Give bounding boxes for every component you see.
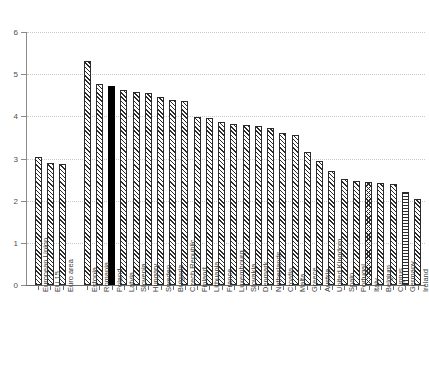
x-axis-tick <box>209 286 210 290</box>
bar-hungary[interactable] <box>145 93 152 285</box>
x-axis-tick <box>418 286 419 290</box>
x-axis-tick <box>393 286 394 290</box>
y-axis-tick-label: 4 <box>2 112 18 121</box>
y-axis-tick-label: 1 <box>2 238 18 247</box>
x-axis-tick <box>332 286 333 290</box>
x-axis-label-greece: Greece <box>310 267 319 292</box>
x-axis-label-estonia: Estonia <box>90 267 99 292</box>
x-axis-tick <box>148 286 149 290</box>
y-axis-tick-label: 2 <box>2 196 18 205</box>
x-axis-label-eu-15: EU 15 <box>53 271 62 292</box>
x-axis-tick <box>63 286 64 290</box>
x-axis-tick <box>283 286 284 290</box>
x-axis-tick <box>136 286 137 290</box>
bar-poland[interactable] <box>108 86 115 285</box>
bar-romania[interactable] <box>96 84 103 285</box>
x-axis-label-luxembourg: Luxembourg <box>237 250 246 292</box>
x-axis-label-latvia: Latvia <box>127 272 136 292</box>
y-axis-tick-label: 6 <box>2 28 18 37</box>
x-axis-label-portugal: Portugal <box>359 264 368 292</box>
bar-chart: 0123456 European UnionEU 15Euro areaEsto… <box>0 0 429 367</box>
x-axis-tick <box>369 286 370 290</box>
bar-malta[interactable] <box>292 135 299 285</box>
x-axis-label-european-union: European Union <box>41 238 50 292</box>
y-axis-tick-label: 5 <box>2 70 18 79</box>
x-axis-label-united-kingdom: United Kingdom <box>335 239 344 292</box>
x-axis-tick <box>295 286 296 290</box>
x-axis-label-lithuania: Lithuania <box>212 262 221 292</box>
x-axis-tick <box>258 286 259 290</box>
x-axis-tick <box>50 286 51 290</box>
x-axis-label-finland: Finland <box>200 267 209 292</box>
x-axis-label-netherlands: Netherlands <box>274 252 283 292</box>
x-axis-label-euro-area: Euro area <box>66 259 75 292</box>
x-axis-tick <box>161 286 162 290</box>
x-axis-label-denmark: Denmark <box>261 262 270 292</box>
x-axis-label-ireland: Ireland <box>421 269 429 292</box>
y-axis-tick <box>21 285 26 286</box>
x-axis-label-hungary: Hungary <box>151 264 160 292</box>
x-axis-tick <box>234 286 235 290</box>
x-axis-label-slovakia: Slovakia <box>249 264 258 292</box>
plot-area <box>26 32 425 285</box>
bar-sweden[interactable] <box>157 97 164 285</box>
x-axis-tick <box>185 286 186 290</box>
x-axis-tick <box>197 286 198 290</box>
x-axis-label-poland: Poland <box>115 269 124 292</box>
bar-estonia[interactable] <box>84 61 91 285</box>
x-axis-label-belgium: Belgium <box>384 265 393 292</box>
x-axis-tick <box>356 286 357 290</box>
x-axis-tick <box>99 286 100 290</box>
x-axis-label-slovenia: Slovenia <box>139 263 148 292</box>
x-axis-tick <box>405 286 406 290</box>
bar-greece[interactable] <box>304 152 311 285</box>
x-axis-label-sweden: Sweden <box>164 265 173 292</box>
bar-slovenia[interactable] <box>133 92 140 285</box>
y-axis-tick-label: 0 <box>2 281 18 290</box>
x-axis-tick <box>87 286 88 290</box>
x-axis-label-malta: Malta <box>298 274 307 292</box>
x-axis-tick <box>320 286 321 290</box>
x-axis-label-italy: Italy <box>372 278 381 292</box>
x-axis-label-romania: Romania <box>102 262 111 292</box>
x-axis-label-spain: Spain <box>347 273 356 292</box>
bar-latvia[interactable] <box>120 90 127 285</box>
x-axis-tick <box>307 286 308 290</box>
x-axis-tick <box>112 286 113 290</box>
x-axis-tick <box>222 286 223 290</box>
bar-bulgaria[interactable] <box>169 100 176 285</box>
x-axis-label-austria: Austria <box>323 269 332 292</box>
x-axis-label-bulgaria: Bulgaria <box>176 264 185 292</box>
y-axis-tick-label: 3 <box>2 154 18 163</box>
x-axis-tick <box>271 286 272 290</box>
x-axis-tick <box>344 286 345 290</box>
x-axis-tick <box>246 286 247 290</box>
x-axis-label-czech-republic: Czech Republic <box>188 239 197 292</box>
bar-lithuania[interactable] <box>206 118 213 285</box>
x-axis-tick <box>38 286 39 290</box>
x-axis-label-croatia: Croatia <box>286 268 295 292</box>
x-axis-label-france: France <box>225 269 234 292</box>
x-axis-label-germany: Germany <box>408 261 417 292</box>
x-axis-label-cyprus: Cyprus <box>396 268 405 292</box>
